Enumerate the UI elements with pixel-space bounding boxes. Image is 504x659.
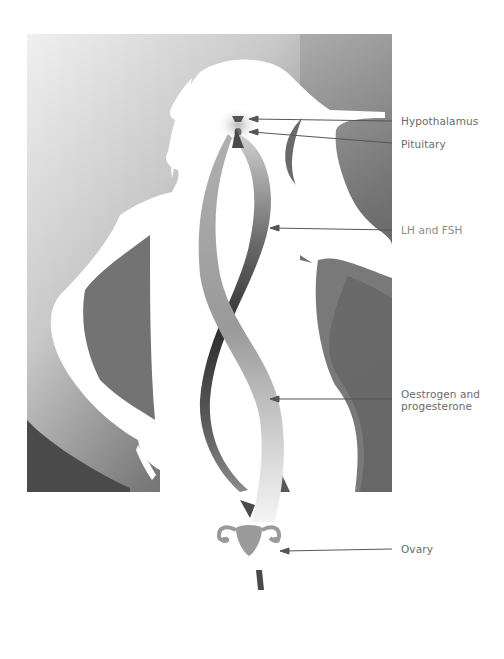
label-hypothalamus: Hypothalamus: [401, 115, 478, 127]
label-pituitary: Pituitary: [401, 138, 446, 150]
label-oestrogen-line2: progesterone: [401, 400, 472, 412]
label-lh-fsh: LH and FSH: [401, 224, 463, 236]
uterus-ovary-icon: [219, 525, 280, 556]
label-oestrogen-line1: Oestrogen and: [401, 388, 480, 400]
diagram-artwork: [0, 0, 504, 659]
hormone-axis-diagram: Hypothalamus Pituitary LH and FSH Oestro…: [0, 0, 504, 659]
label-ovary: Ovary: [401, 543, 433, 555]
